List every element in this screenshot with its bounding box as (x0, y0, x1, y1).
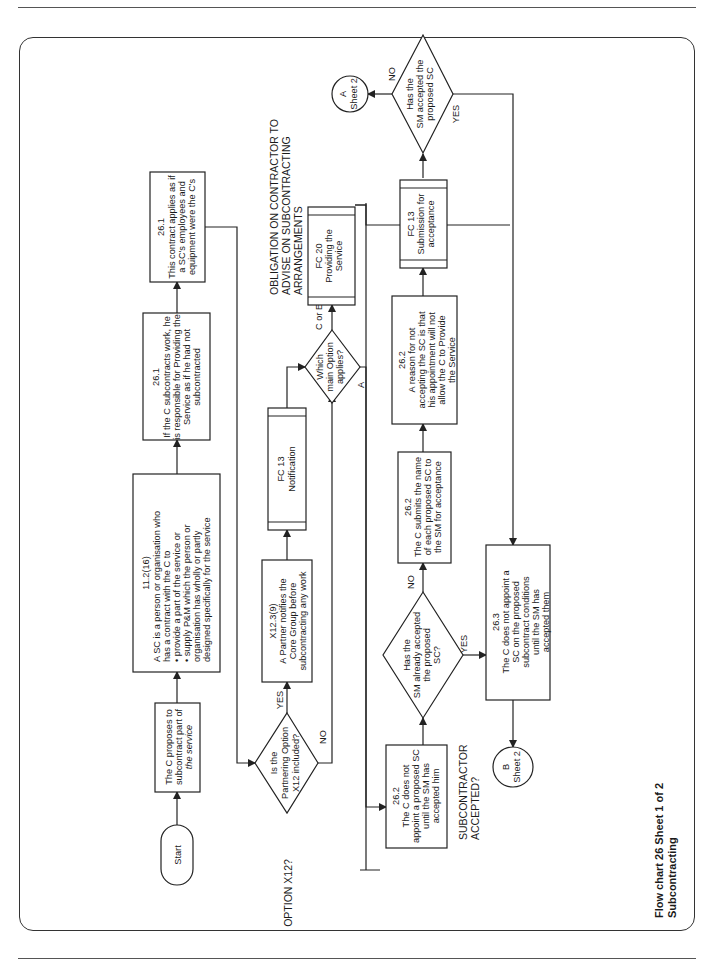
partner-notifies-box: X12.3(9) A Partner notifies the Core Gro… (262, 560, 312, 682)
edge-label-c-or-e: C or E (314, 304, 324, 330)
svg-text:applies?: applies? (335, 350, 345, 384)
svg-text:accepting the SC is that: accepting the SC is that (417, 311, 427, 408)
svg-text:Sheet 2: Sheet 2 (349, 78, 359, 110)
svg-text:organisation has wholly or par: organisation has wholly or partly (192, 530, 202, 662)
partnering-option-decision: Is the Partnering Option X12 included? (255, 713, 318, 813)
svg-text:26.1: 26.1 (156, 218, 166, 236)
svg-text:the Service: the Service (447, 337, 457, 383)
svg-text:Which: Which (315, 354, 325, 380)
fc13-submission-process: FC 13 Submission for acceptance (400, 180, 447, 268)
svg-text:If the C subcontracts work, he: If the C subcontracts work, he (162, 316, 172, 438)
svg-text:acceptance: acceptance (426, 201, 436, 248)
sm-accepted-decision: Has the SM accepted the proposed SC (392, 35, 453, 153)
svg-text:• provide a part of the servic: • provide a part of the service or (172, 532, 182, 662)
svg-text:26.2: 26.2 (391, 787, 401, 805)
svg-text:Sheet 2: Sheet 2 (512, 751, 522, 783)
svg-text:SM already accepted: SM already accepted (412, 612, 422, 698)
sc-definition-box: 11.2(16) A SC is a person or organisatio… (133, 474, 220, 672)
svg-text:designed specifically for the: designed specifically for the service (202, 517, 212, 662)
fc20-providing-service-process: FC 20 Providing the Service (308, 207, 355, 305)
svg-text:until the SM has: until the SM has (421, 763, 431, 829)
svg-text:Partnering Option: Partnering Option (280, 727, 290, 799)
svg-text:the service: the service (184, 725, 194, 769)
edge-label-a: A (356, 381, 366, 388)
svg-text:Start: Start (173, 845, 183, 865)
svg-text:his appointment will not: his appointment will not (427, 312, 437, 408)
svg-text:The C does not appoint a: The C does not appoint a (501, 570, 511, 674)
svg-text:proposed SC: proposed SC (425, 67, 435, 121)
svg-text:Core Group before: Core Group before (288, 583, 298, 660)
svg-text:ACCEPTED?: ACCEPTED? (469, 777, 481, 840)
edge-label-no: NO (387, 67, 397, 81)
already-accepted-decision: Has the SM already accepted the proposed… (383, 592, 463, 718)
svg-text:26.2: 26.2 (397, 351, 407, 369)
svg-text:OBLIGATION ON CONTRACTOR TO: OBLIGATION ON CONTRACTOR TO (268, 119, 280, 295)
svg-text:Flow chart 26 Sheet 1 of 2: Flow chart 26 Sheet 1 of 2 (653, 783, 665, 918)
svg-text:SC?: SC? (432, 646, 442, 664)
svg-text:A: A (338, 90, 348, 97)
svg-text:Subcontracting: Subcontracting (666, 837, 678, 918)
edge-label-yes: YES (451, 105, 461, 123)
svg-text:Notification: Notification (287, 446, 297, 491)
svg-text:accepted them: accepted them (541, 592, 551, 653)
svg-text:is responsible for Providing t: is responsible for Providing the (172, 314, 182, 440)
subcontract-conditions-box: 26.3 The C does not appoint a SC on the … (486, 545, 551, 700)
svg-text:SC on the proposed: SC on the proposed (511, 581, 521, 663)
svg-text:This contract applies as if: This contract applies as if (167, 175, 177, 279)
svg-text:26.2: 26.2 (403, 498, 413, 516)
svg-text:The C does not: The C does not (401, 764, 411, 827)
svg-text:has a contract with the C to: has a contract with the C to (162, 551, 172, 662)
svg-text:SUBCONTRACTOR: SUBCONTRACTOR (457, 744, 469, 840)
section-label-obligation: OBLIGATION ON CONTRACTOR TO ADVISE ON SU… (268, 119, 304, 295)
svg-text:Providing the: Providing the (324, 229, 334, 283)
svg-text:of each proposed SC to: of each proposed SC to (423, 459, 433, 556)
svg-text:X12 included?: X12 included? (291, 734, 301, 792)
svg-text:26.3: 26.3 (491, 613, 501, 631)
flowchart: Start The C proposes to subcontract part… (0, 0, 726, 976)
svg-text:B: B (501, 764, 511, 770)
svg-text:The C proposes to: The C proposes to (164, 709, 174, 785)
svg-text:11.2(16): 11.2(16) (141, 556, 151, 590)
svg-text:• supply P&M which the person: • supply P&M which the person or (182, 524, 192, 662)
svg-text:the proposed: the proposed (422, 628, 432, 682)
connector-a-sheet-2: A Sheet 2 (332, 76, 368, 112)
svg-text:subcontract conditions: subcontract conditions (521, 576, 531, 668)
svg-text:subcontract part of: subcontract part of (174, 709, 184, 786)
edge-label-no: NO (406, 575, 416, 589)
svg-text:The C submits the name: The C submits the name (413, 457, 423, 557)
svg-text:Service as if he had not: Service as if he had not (182, 329, 192, 425)
svg-text:Has the: Has the (405, 78, 415, 110)
svg-text:Service: Service (334, 241, 344, 272)
svg-text:allow the C to Provide: allow the C to Provide (437, 315, 447, 404)
edge-label-no: NO (318, 730, 328, 744)
svg-text:subcontracting any work: subcontracting any work (298, 571, 308, 670)
responsible-box: 26.1 If the C subcontracts work, he is r… (143, 313, 210, 440)
svg-text:FC 20: FC 20 (314, 243, 324, 268)
svg-text:26.1: 26.1 (151, 368, 161, 386)
svg-text:a SC's employees and: a SC's employees and (177, 181, 187, 273)
svg-text:SM accepted the: SM accepted the (415, 60, 425, 129)
start-terminator: Start (161, 825, 193, 885)
figure-caption: Flow chart 26 Sheet 1 of 2 Subcontractin… (653, 783, 678, 918)
submits-name-box: 26.2 The C submits the name of each prop… (398, 452, 451, 563)
svg-text:FC 13: FC 13 (276, 456, 286, 481)
reason-box: 26.2 A reason for not accepting the SC i… (392, 296, 457, 424)
not-appoint-box: 26.2 The C does not appoint a proposed S… (386, 745, 447, 848)
svg-text:FC 13: FC 13 (406, 211, 416, 236)
edge-label-yes: YES (275, 691, 285, 709)
svg-text:A Partner notifies the: A Partner notifies the (278, 578, 288, 663)
main-option-decision: Which main Option applies? (305, 330, 360, 403)
svg-text:A SC is a person or organisati: A SC is a person or organisation who (152, 511, 162, 662)
connector-b-sheet-2: B Sheet 2 (493, 747, 533, 787)
section-label-option-x12: OPTION X12? (282, 859, 294, 927)
svg-text:the SM for acceptance: the SM for acceptance (433, 461, 443, 553)
contract-applies-box: 26.1 This contract applies as if a SC's … (150, 172, 205, 282)
edge-label-yes: YES (459, 635, 469, 653)
svg-text:Submission for: Submission for (416, 194, 426, 255)
svg-text:ARRANGEMENTS: ARRANGEMENTS (292, 206, 304, 295)
proposes-box: The C proposes to subcontract part of th… (155, 703, 200, 792)
svg-text:equipment were the C's: equipment were the C's (187, 178, 197, 275)
svg-text:subcontracted: subcontracted (192, 348, 202, 406)
svg-text:ADVISE ON SUBCONTRACTING: ADVISE ON SUBCONTRACTING (280, 136, 292, 295)
svg-text:X12.3(9): X12.3(9) (268, 603, 278, 638)
